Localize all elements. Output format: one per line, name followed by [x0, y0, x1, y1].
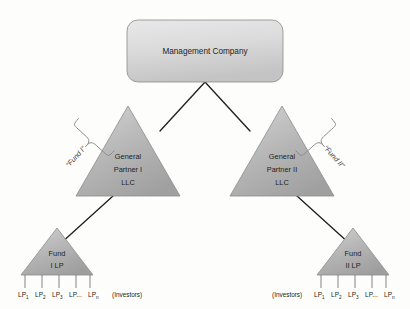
connector-mgmt-to-gp2: [205, 82, 250, 131]
fund-1-brace-label: “Fund I”: [64, 144, 88, 169]
general-partner-2-label-line1: General: [269, 152, 296, 161]
management-company-node[interactable]: Management Company: [127, 20, 283, 82]
fund-1-lp-label-4: LP...: [69, 291, 82, 298]
diagram-canvas: Management Company General Partner I LLC…: [0, 0, 410, 309]
fund-1-lp-labels: LP1 LP2 LP3 LP... LPn (Investors): [18, 291, 142, 300]
management-company-label: Management Company: [162, 47, 248, 56]
general-partner-2-label-line3: LLC: [275, 178, 289, 187]
fund-2-brace-label: “Fund II”: [322, 143, 347, 170]
fund-2-investors-label: (Investors): [272, 291, 302, 299]
fund-1-lp-label-3: LP3: [52, 291, 63, 300]
fund-1-lp-ticks: [25, 275, 90, 288]
fund-2-lp-label-1: LP1: [314, 291, 325, 300]
connector-gp2-to-fund2: [297, 196, 350, 244]
general-partner-1-label-line3: LLC: [121, 178, 135, 187]
fund-2-label-line1: Fund: [345, 249, 362, 258]
fund-2-lp-labels: (Investors) LP1 LP2 LP3 LP... LPn: [272, 291, 395, 300]
fund-1-investors-label: (Investors): [112, 291, 142, 299]
fund-2-lp-label-3: LP3: [348, 291, 359, 300]
fund-2-lp-ticks: [321, 275, 386, 288]
connector-mgmt-to-gp1: [160, 82, 205, 131]
fund-1-lp-label-5: LPn: [88, 291, 99, 300]
fund-1-lp-label-1: LP1: [18, 291, 29, 300]
fund-1-label-line2: I LP: [50, 261, 63, 270]
fund-2-lp-label-5: LPn: [384, 291, 395, 300]
general-partner-1-label-line1: General: [115, 152, 142, 161]
fund-2-label-line2: II LP: [345, 261, 360, 270]
general-partner-1-label-line2: Partner I: [114, 165, 142, 174]
fund-structure-diagram: Management Company General Partner I LLC…: [0, 0, 410, 309]
fund-2-node[interactable]: Fund II LP: [317, 228, 389, 275]
fund-1-lp-label-2: LP2: [35, 291, 46, 300]
fund-1-label-line1: Fund: [49, 249, 66, 258]
connector-gp1-to-fund1: [60, 196, 113, 244]
fund-2-lp-label-4: LP...: [365, 291, 378, 298]
general-partner-2-label-line2: Partner II: [267, 165, 297, 174]
fund-1-node[interactable]: Fund I LP: [21, 228, 93, 275]
fund-2-lp-label-2: LP2: [331, 291, 342, 300]
general-partner-2-node[interactable]: General Partner II LLC: [230, 106, 334, 196]
general-partner-1-node[interactable]: General Partner I LLC: [76, 106, 180, 196]
